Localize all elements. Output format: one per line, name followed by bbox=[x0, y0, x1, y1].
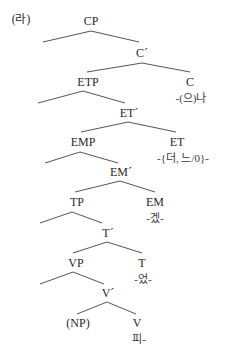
node-emp: EMP bbox=[71, 136, 96, 148]
tree-branches bbox=[0, 0, 228, 358]
node-np: (NP) bbox=[66, 317, 89, 329]
node-etp: ETP bbox=[77, 76, 98, 88]
morpheme-em: -겠- bbox=[146, 213, 163, 224]
node-em-bar: EM´ bbox=[110, 166, 132, 178]
node-cp: CP bbox=[84, 15, 99, 27]
morpheme-c: -(으)나 bbox=[176, 93, 207, 104]
node-c: C bbox=[186, 76, 194, 88]
node-vp: VP bbox=[68, 257, 83, 269]
node-t: T bbox=[138, 257, 145, 269]
node-t-bar: T´ bbox=[102, 227, 113, 239]
example-label: (라) bbox=[12, 14, 31, 26]
node-em: EM bbox=[146, 196, 164, 208]
node-c-bar: C´ bbox=[136, 47, 148, 59]
node-et: ET bbox=[170, 136, 185, 148]
morpheme-t: -었- bbox=[134, 274, 151, 285]
node-tp: TP bbox=[70, 196, 84, 208]
morpheme-v: 피- bbox=[132, 334, 146, 345]
node-et-bar: ET´ bbox=[120, 107, 139, 119]
node-v: V bbox=[133, 317, 142, 329]
morpheme-et: -{더, 느/0}- bbox=[157, 153, 209, 164]
node-v-bar: V´ bbox=[102, 287, 115, 299]
